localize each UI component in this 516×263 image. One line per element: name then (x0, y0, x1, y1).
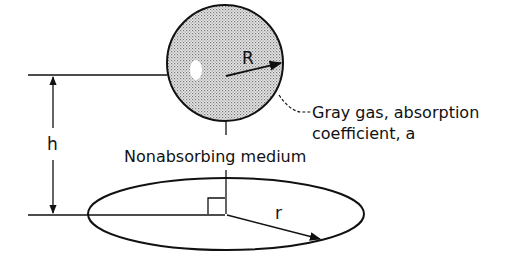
disk-radius-arrow (227, 215, 320, 239)
right-angle-marker (208, 198, 225, 214)
gas-label-line2: coefficient, a (312, 124, 415, 143)
disk-radius-label: r (275, 203, 282, 223)
gray-gas-sphere (167, 5, 283, 121)
gas-leader-line (279, 95, 311, 112)
medium-label: Nonabsorbing medium (124, 147, 306, 166)
sphere-radius-label: R (242, 48, 254, 68)
gas-label-line1: Gray gas, absorption (312, 103, 479, 122)
diagram-canvas: R h r Gray gas, absorption coefficient, … (0, 0, 516, 263)
height-label: h (47, 134, 58, 154)
